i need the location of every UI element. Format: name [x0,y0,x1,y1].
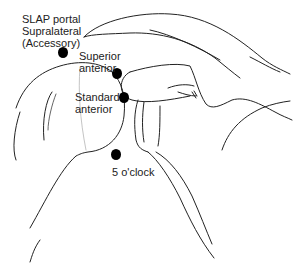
shoulder-portal-diagram: SLAP portal Supralateral (Accessory) Sup… [0,0,299,274]
label-superior-anterior: Superior anterior [79,50,121,74]
label-standard-anterior: Standard anterior [75,91,120,115]
portal-marker-standard-anterior [119,92,129,103]
label-slap-portal: SLAP portal Supralateral (Accessory) [22,13,81,49]
figure-caption-clipped [0,266,299,274]
portal-marker-five-oclock [111,149,121,160]
label-five-oclock: 5 o'clock [112,166,154,178]
